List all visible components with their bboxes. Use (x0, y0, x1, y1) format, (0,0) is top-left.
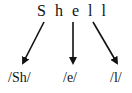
arrow-l-icon (93, 22, 117, 63)
phoneme-label-sh: /Sh/ (8, 70, 31, 86)
phoneme-label-e: /e/ (63, 70, 77, 86)
arrow-sh-icon (23, 22, 44, 63)
phoneme-label-l: /l/ (110, 70, 122, 86)
